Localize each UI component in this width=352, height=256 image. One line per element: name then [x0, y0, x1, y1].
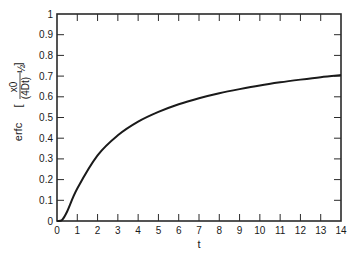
x-tick-label: 11 [275, 225, 286, 236]
y-axis-ticks: 00.10.20.30.40.50.60.70.80.91 [39, 9, 341, 227]
y-axis-label: erfc [ x0 (4Dt) ½ ] [8, 62, 31, 141]
y-tick-label: 1 [47, 9, 53, 20]
svg-text:(4Dt): (4Dt) [20, 77, 31, 99]
erfc-curve [57, 75, 341, 221]
y-tick-label: 0.4 [39, 133, 53, 144]
y-tick-label: 0.1 [39, 195, 53, 206]
x-tick-label: 7 [196, 225, 202, 236]
y-tick-label: 0.2 [39, 174, 53, 185]
plot-frame [57, 14, 341, 221]
svg-text:[: [ [12, 104, 24, 107]
y-tick-label: 0.3 [39, 153, 53, 164]
y-tick-label: 0.8 [39, 50, 53, 61]
x-tick-label: 5 [156, 225, 162, 236]
y-tick-label: 0.6 [39, 91, 53, 102]
svg-text:]: ] [12, 62, 24, 65]
x-tick-label: 8 [217, 225, 223, 236]
x-tick-label: 2 [95, 225, 101, 236]
x-tick-label: 9 [237, 225, 243, 236]
x-tick-label: 3 [115, 225, 121, 236]
x-tick-label: 4 [135, 225, 141, 236]
y-tick-label: 0.7 [39, 71, 53, 82]
x-axis-label: t [197, 238, 200, 250]
x-tick-label: 13 [315, 225, 327, 236]
x-tick-label: 14 [335, 225, 347, 236]
x-tick-label: 10 [254, 225, 266, 236]
svg-text:x0: x0 [8, 81, 19, 92]
svg-text:erfc: erfc [12, 122, 24, 141]
x-tick-label: 1 [75, 225, 81, 236]
y-tick-label: 0.9 [39, 29, 53, 40]
x-tick-label: 0 [54, 225, 60, 236]
y-tick-label: 0.5 [39, 112, 53, 123]
x-axis-ticks: 01234567891011121314 [54, 14, 347, 236]
erfc-chart: 00.10.20.30.40.50.60.70.80.91 0123456789… [0, 0, 352, 256]
x-tick-label: 12 [295, 225, 307, 236]
x-tick-label: 6 [176, 225, 182, 236]
y-tick-label: 0 [47, 216, 53, 227]
